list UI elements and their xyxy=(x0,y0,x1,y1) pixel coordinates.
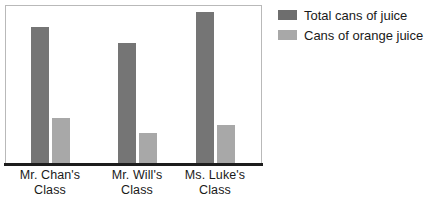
bar-orange-juice-luke xyxy=(217,125,235,164)
category-label-luke-line2: Class xyxy=(169,183,261,198)
legend-item-total-cans: Total cans of juice xyxy=(278,6,438,24)
category-label-luke: Ms. Luke's Class xyxy=(169,168,261,198)
bar-total-cans-will xyxy=(118,43,136,164)
bar-chart-figure: Mr. Chan's Class Mr. Will's Class Ms. Lu… xyxy=(0,0,439,204)
legend-label-total-cans: Total cans of juice xyxy=(304,8,407,23)
x-axis-baseline xyxy=(4,163,263,166)
category-label-will-line1: Mr. Will's xyxy=(112,168,163,182)
legend-swatch-icon-orange-juice xyxy=(278,30,297,40)
bar-total-cans-luke xyxy=(196,12,214,164)
category-label-chan: Mr. Chan's Class xyxy=(4,168,96,198)
bars-layer xyxy=(5,5,262,164)
bar-orange-juice-will xyxy=(139,133,157,164)
legend-label-orange-juice: Cans of orange juice xyxy=(304,28,423,43)
legend-swatch-icon-total-cans xyxy=(278,10,297,20)
legend-item-orange-juice: Cans of orange juice xyxy=(278,26,438,44)
bar-total-cans-chan xyxy=(31,27,49,164)
bar-orange-juice-chan xyxy=(52,118,70,164)
category-label-chan-line1: Mr. Chan's xyxy=(20,168,80,182)
category-axis-labels: Mr. Chan's Class Mr. Will's Class Ms. Lu… xyxy=(5,168,262,204)
category-label-chan-line2: Class xyxy=(4,183,96,198)
category-label-luke-line1: Ms. Luke's xyxy=(185,168,245,182)
chart-legend: Total cans of juice Cans of orange juice xyxy=(278,6,438,46)
